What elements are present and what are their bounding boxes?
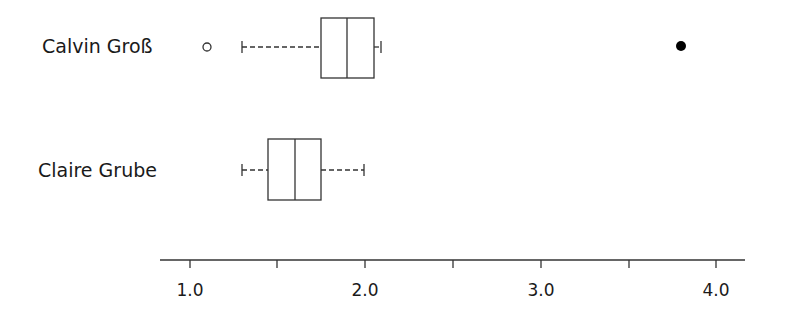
box-claire-grube	[242, 139, 364, 200]
box-calvin-gross	[203, 18, 381, 78]
category-label-claire-grube: Claire Grube	[38, 159, 157, 181]
x-axis	[160, 260, 745, 268]
boxplot-chart: Calvin Groß Claire Grube 1.0 2.0 3.0 4.0	[0, 0, 786, 315]
marked-point	[676, 41, 686, 51]
tick-label: 1.0	[176, 280, 203, 300]
category-label-calvin-gross: Calvin Groß	[42, 35, 153, 57]
tick-label: 3.0	[527, 280, 554, 300]
tick-label: 2.0	[351, 280, 378, 300]
tick-label: 4.0	[702, 280, 729, 300]
outlier-point	[203, 43, 211, 51]
